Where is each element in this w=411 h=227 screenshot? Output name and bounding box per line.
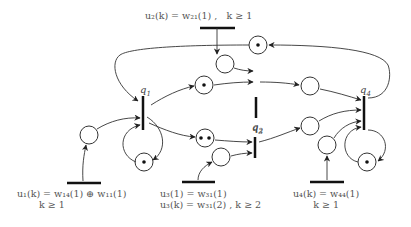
arc (345, 127, 361, 162)
token (142, 160, 146, 164)
token (202, 83, 206, 87)
arc (269, 45, 390, 98)
place-q3-q4 (301, 117, 319, 135)
place-u2 (216, 55, 234, 73)
arc (234, 68, 253, 71)
arc (83, 145, 86, 181)
token (199, 136, 203, 140)
place-u3 (212, 148, 230, 166)
label-q3: q3 (252, 122, 263, 138)
arc (368, 130, 385, 161)
arc (214, 82, 253, 85)
arc (198, 162, 212, 180)
place-u4 (318, 136, 336, 154)
arc (151, 86, 194, 105)
u1-equation: u₁(k) = w₁₄(1) ⊕ w₁₁(1) k ≥ 1 (17, 188, 127, 210)
arc (319, 110, 361, 121)
u3-equation: u₃(1) = w₃₁(1) u₃(k) = w₃₁(2) , k ≥ 2 (160, 188, 261, 210)
place-q1-q3 (196, 129, 214, 147)
arc (215, 140, 252, 142)
arc (260, 82, 299, 85)
arc (231, 153, 252, 156)
place-u1 (80, 126, 98, 144)
token (256, 43, 260, 47)
arc (320, 89, 361, 100)
u2-equation: u₂(k) = w₂₁(1) , k ≥ 1 (145, 10, 252, 21)
token (365, 160, 369, 164)
label-q4: q4 (360, 84, 371, 100)
arc (115, 45, 249, 101)
label-q1: q1 (140, 84, 151, 100)
u4-equation: u₄(k) = w₄₄(1) k ≥ 1 (293, 188, 359, 210)
token (207, 136, 211, 140)
arc (259, 128, 300, 142)
place-q2-q4 (301, 77, 319, 95)
